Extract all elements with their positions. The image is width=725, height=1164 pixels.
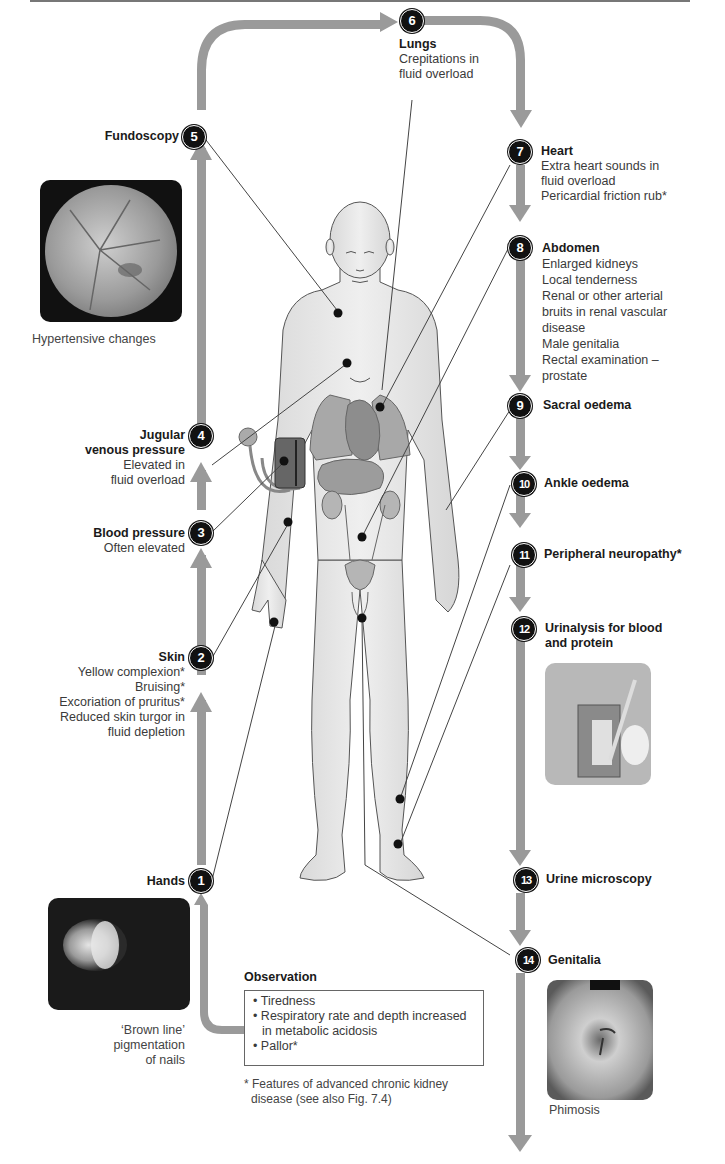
phimosis-caption: Phimosis bbox=[549, 1103, 600, 1118]
label-sacral-oedema: Sacral oedema bbox=[543, 398, 631, 413]
step-badge-1: 1 bbox=[189, 869, 213, 893]
footnote: * Features of advanced chronic kidney di… bbox=[244, 1077, 448, 1107]
label-urinalysis: Urinalysis for blood and protein bbox=[545, 621, 662, 651]
nail-photo bbox=[48, 898, 190, 1010]
label-ankle-oedema: Ankle oedema bbox=[544, 476, 629, 491]
observation-list: Tiredness Respiratory rate and depth inc… bbox=[253, 994, 475, 1054]
human-figure bbox=[261, 202, 459, 880]
urine-dipstick-photo bbox=[545, 663, 651, 785]
step-badge-10: 10 bbox=[512, 472, 536, 496]
step-badge-3: 3 bbox=[189, 521, 213, 545]
label-lungs: Lungs Crepitations in fluid overload bbox=[399, 37, 479, 82]
fundus-photo bbox=[40, 180, 182, 322]
label-urine-microscopy: Urine microscopy bbox=[546, 872, 652, 887]
phimosis-photo bbox=[547, 980, 653, 1100]
observation-item: Pallor* bbox=[253, 1039, 475, 1054]
step-badge-9: 9 bbox=[508, 394, 532, 418]
observation-title: Observation bbox=[244, 970, 317, 985]
label-skin: Skin Yellow complexion* Bruising* Excori… bbox=[59, 650, 185, 740]
label-hands: Hands bbox=[147, 874, 185, 889]
label-peripheral-neuropathy: Peripheral neuropathy* bbox=[544, 547, 682, 562]
step-badge-4: 4 bbox=[189, 424, 213, 448]
observation-box: Tiredness Respiratory rate and depth inc… bbox=[244, 990, 484, 1066]
label-blood-pressure: Blood pressure Often elevated bbox=[93, 526, 185, 556]
step-badge-14: 14 bbox=[516, 948, 540, 972]
step-badge-7: 7 bbox=[508, 140, 532, 164]
observation-item: Respiratory rate and depth increased in … bbox=[253, 1009, 475, 1039]
step-badge-6: 6 bbox=[400, 9, 424, 33]
label-fundoscopy: Fundoscopy bbox=[105, 129, 179, 144]
step-badge-5: 5 bbox=[182, 125, 206, 149]
step-badge-11: 11 bbox=[512, 543, 536, 567]
label-genitalia: Genitalia bbox=[548, 953, 601, 968]
step-badge-2: 2 bbox=[189, 646, 213, 670]
label-jvp: Jugular venous pressure Elevated in flui… bbox=[85, 428, 185, 488]
nail-caption: ‘Brown line’ pigmentation of nails bbox=[113, 1023, 185, 1068]
observation-item: Tiredness bbox=[253, 994, 475, 1009]
label-abdomen: Abdomen Enlarged kidneys Local tendernes… bbox=[542, 240, 667, 384]
step-badge-12: 12 bbox=[512, 617, 536, 641]
fundus-caption: Hypertensive changes bbox=[32, 332, 156, 347]
step-badge-13: 13 bbox=[514, 868, 538, 892]
step-badge-8: 8 bbox=[508, 236, 532, 260]
label-heart: Heart Extra heart sounds in fluid overlo… bbox=[541, 144, 667, 204]
